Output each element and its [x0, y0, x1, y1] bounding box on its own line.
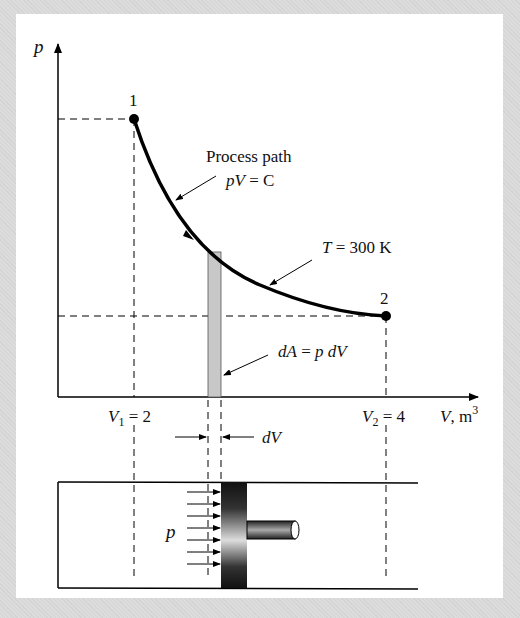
v1-label: V1 = 2 — [108, 407, 151, 429]
point-1-label: 1 — [129, 91, 138, 110]
pressure-arrows — [187, 492, 220, 564]
piston-pressure-label: p — [164, 521, 176, 542]
point-2 — [381, 311, 391, 321]
temperature-pointer-arrow — [270, 260, 312, 285]
pv-equation: pV = C — [225, 171, 274, 190]
y-axis-label: p — [32, 36, 44, 57]
da-equation: dA = p dV — [278, 342, 349, 361]
dv-label: dV — [262, 428, 284, 447]
point-1 — [129, 114, 139, 124]
da-pointer-arrow — [224, 355, 268, 375]
pv-pointer-arrow — [176, 176, 216, 200]
process-path-label: Process path — [206, 147, 292, 166]
cylinder-bottom-wall — [58, 588, 418, 589]
piston — [221, 482, 247, 588]
x-axis-label: V, m3 — [440, 403, 478, 426]
da-strip — [208, 252, 221, 397]
pv-diagram: p 1 2 Process path pV = C T = 300 K dA =… — [0, 0, 520, 618]
temperature-label: T = 300 K — [322, 238, 392, 257]
point-2-label: 2 — [380, 289, 389, 308]
piston-rod — [247, 521, 295, 539]
v2-label: V2 = 4 — [362, 407, 405, 429]
